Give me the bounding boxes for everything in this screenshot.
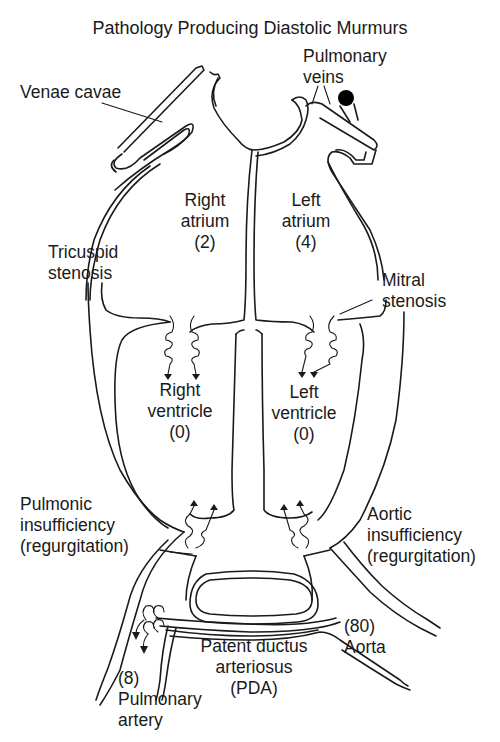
label-line: Right [130,380,230,401]
label-line: insufficiency [20,515,129,536]
label-line: veins [303,67,387,88]
label-line: (regurgitation) [367,546,476,567]
label-right-atrium: Right atrium (2) [150,190,260,253]
label-line: artery [118,710,202,731]
label-venae-cavae: Venae cavae [20,82,121,103]
label-line: Pulmonic [20,494,129,515]
pressure-left-ventricle: (0) [254,424,354,445]
heart-diagram [0,0,500,742]
pressure-right-atrium: (2) [150,232,260,253]
label-line: Patent ductus [184,636,324,657]
label-line: Tricuspid [48,242,118,263]
label-aorta: (80) Aorta [344,616,386,658]
label-right-ventricle: Right ventricle (0) [130,380,230,443]
label-aortic-insufficiency: Aortic insufficiency (regurgitation) [367,504,476,567]
pressure-left-atrium: (4) [256,232,356,253]
label-line: atrium [150,211,260,232]
pressure-pulmonary-artery: (8) [118,668,202,689]
label-mitral-stenosis: Mitral stenosis [382,270,446,312]
label-line: arteriosus [184,657,324,678]
pressure-aorta: (80) [344,616,386,637]
diagram-title: Pathology Producing Diastolic Murmurs [0,18,500,39]
label-tricuspid-stenosis: Tricuspid stenosis [48,242,118,284]
label-line: Left [256,190,356,211]
label-line: insufficiency [367,525,476,546]
label-line: Pulmonary [118,689,202,710]
label-line: ventricle [130,401,230,422]
label-line: Mitral [382,270,446,291]
label-line: stenosis [382,291,446,312]
label-line: Right [150,190,260,211]
label-pulmonary-veins: Pulmonary veins [303,46,387,88]
label-line: (regurgitation) [20,536,129,557]
label-line: ventricle [254,403,354,424]
tricuspid-valve [164,316,200,380]
pressure-right-ventricle: (0) [130,422,230,443]
label-left-atrium: Left atrium (4) [256,190,356,253]
aortic-valve [280,500,330,556]
label-left-ventricle: Left ventricle (0) [254,382,354,445]
label-pda: Patent ductus arteriosus (PDA) [184,636,324,699]
label-line: Pulmonary [303,46,387,67]
label-pulmonic-insufficiency: Pulmonic insufficiency (regurgitation) [20,494,129,557]
label-pulmonary-artery: (8) Pulmonary artery [118,668,202,731]
label-line: Aortic [367,504,476,525]
label-line: Aorta [344,637,386,658]
label-line: (PDA) [184,678,324,699]
atrial-roof [210,72,308,156]
label-line: Left [254,382,354,403]
label-line: stenosis [48,263,118,284]
label-line: atrium [256,211,356,232]
